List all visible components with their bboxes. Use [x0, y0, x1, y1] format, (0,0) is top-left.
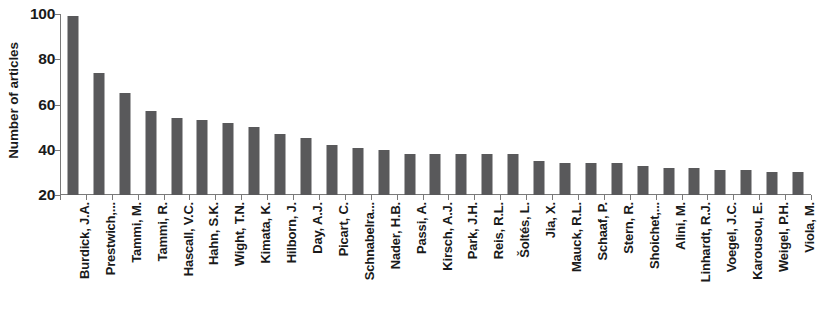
bar-slot: [733, 14, 759, 195]
bar-slot: [707, 14, 733, 195]
x-tick-label-text: Burdick, J.A.: [78, 202, 91, 279]
bar[interactable]: [197, 120, 208, 195]
x-tick-label-text: Voegel, J.C.: [725, 202, 738, 272]
x-tick-label-text: Mauck, R.L.: [570, 202, 583, 272]
bar[interactable]: [275, 134, 286, 195]
x-tick-mark: [241, 195, 242, 200]
bar[interactable]: [378, 150, 389, 195]
bar-slot: [112, 14, 138, 195]
bar[interactable]: [611, 163, 622, 195]
x-tick-label: Karousou, E.: [751, 202, 764, 280]
x-tick-mark: [319, 195, 320, 200]
bar[interactable]: [352, 148, 363, 196]
bar[interactable]: [793, 172, 804, 195]
bar-slot: [397, 14, 423, 195]
x-tick-mark: [293, 195, 294, 200]
bar-slot: [423, 14, 449, 195]
x-axis-tick-labels: Burdick, J.A.Prestwich,...Tammi, M.Tammi…: [60, 202, 811, 314]
x-tick-mark: [759, 195, 760, 200]
bar[interactable]: [585, 163, 596, 195]
x-tick-mark: [500, 195, 501, 200]
x-tick-label-text: Šoltés, L.: [518, 202, 531, 258]
bar[interactable]: [326, 145, 337, 195]
x-tick-mark: [526, 195, 527, 200]
bar[interactable]: [404, 154, 415, 195]
x-axis-tick-marks: [60, 195, 811, 201]
x-tick-mark: [552, 195, 553, 200]
x-tick-mark: [604, 195, 605, 200]
x-tick-label: Day, A.J.: [311, 202, 324, 254]
bar[interactable]: [119, 93, 130, 195]
y-tick-label: 80: [38, 50, 55, 68]
bar[interactable]: [301, 138, 312, 195]
bar[interactable]: [171, 118, 182, 195]
bar-slot: [345, 14, 371, 195]
x-tick-mark: [138, 195, 139, 200]
bar[interactable]: [767, 172, 778, 195]
y-tick-label: 40: [38, 141, 55, 159]
bar[interactable]: [456, 154, 467, 195]
bar-slot: [215, 14, 241, 195]
bar[interactable]: [508, 154, 519, 195]
bar[interactable]: [93, 73, 104, 195]
x-tick-label: Alini, M.: [674, 202, 687, 250]
bar[interactable]: [689, 168, 700, 195]
x-tick-label: Tammi, R.: [156, 202, 169, 261]
x-tick-label: Schnabelra...: [363, 202, 376, 280]
bar-slot: [241, 14, 267, 195]
x-tick-mark: [682, 195, 683, 200]
bar[interactable]: [249, 127, 260, 195]
y-tick-label: 20: [38, 186, 55, 204]
x-tick-mark: [371, 195, 372, 200]
y-tick-label: 100: [30, 5, 55, 23]
x-tick-label-text: Hascall, V.C.: [182, 202, 195, 276]
x-tick-label-text: Shoichet,...: [648, 202, 661, 269]
x-tick-label-text: Picart, C.: [337, 202, 350, 256]
bar-slot: [293, 14, 319, 195]
bar[interactable]: [534, 161, 545, 195]
bar-slot: [371, 14, 397, 195]
y-tick-label: 60: [38, 96, 55, 114]
bar[interactable]: [223, 123, 234, 195]
bar[interactable]: [741, 170, 752, 195]
x-tick-label: Kimata, K.: [259, 202, 272, 264]
x-tick-mark: [164, 195, 165, 200]
x-tick-label-text: Nader, H.B.: [389, 202, 402, 269]
x-tick-label-text: Hilborn, J.: [285, 202, 298, 263]
x-tick-label: Prestwich,...: [104, 202, 117, 275]
x-tick-label: Stern, R.: [622, 202, 635, 254]
bar[interactable]: [715, 170, 726, 195]
x-tick-mark: [578, 195, 579, 200]
bar-slot: [682, 14, 708, 195]
bar-slot: [552, 14, 578, 195]
bar-slot: [60, 14, 86, 195]
bar[interactable]: [663, 168, 674, 195]
x-tick-mark: [448, 195, 449, 200]
bar[interactable]: [67, 16, 78, 195]
bar-slot: [578, 14, 604, 195]
bar[interactable]: [559, 163, 570, 195]
x-tick-label: Kirsch, A.J.: [441, 202, 454, 271]
x-tick-label: Weigel, P.H.: [777, 202, 790, 272]
x-tick-label-text: Schnabelra...: [363, 202, 376, 280]
x-tick-mark: [707, 195, 708, 200]
x-tick-label: Park, J.H.: [466, 202, 479, 259]
bar-slot: [86, 14, 112, 195]
bar-slot: [500, 14, 526, 195]
y-axis-title-label: Number of articles: [6, 42, 21, 159]
x-tick-label: Reis, R.L.: [492, 202, 505, 259]
x-tick-label: Burdick, J.A.: [78, 202, 91, 279]
x-tick-mark: [112, 195, 113, 200]
x-tick-label-text: Tammi, M.: [130, 202, 143, 263]
bar[interactable]: [482, 154, 493, 195]
bar-slot: [164, 14, 190, 195]
x-tick-label: Wight, T.N.: [233, 202, 246, 266]
bar-slot: [267, 14, 293, 195]
bar[interactable]: [637, 166, 648, 195]
x-tick-label: Linhardt, R.J.: [699, 202, 712, 282]
x-tick-label: Šoltés, L.: [518, 202, 531, 258]
bar[interactable]: [430, 154, 441, 195]
x-tick-label: Schaaf, P.: [596, 202, 609, 260]
bar-slot: [474, 14, 500, 195]
bar[interactable]: [145, 111, 156, 195]
